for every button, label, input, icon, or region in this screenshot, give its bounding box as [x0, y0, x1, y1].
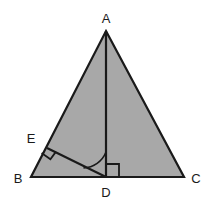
geometry-figure: A B C D E [0, 0, 208, 204]
geometry-canvas: A B C D E [0, 0, 208, 204]
vertex-label-b: B [14, 171, 23, 186]
vertex-label-d: D [101, 185, 110, 200]
vertex-label-a: A [102, 11, 111, 26]
vertex-label-e: E [27, 131, 36, 146]
vertex-label-c: C [191, 171, 200, 186]
